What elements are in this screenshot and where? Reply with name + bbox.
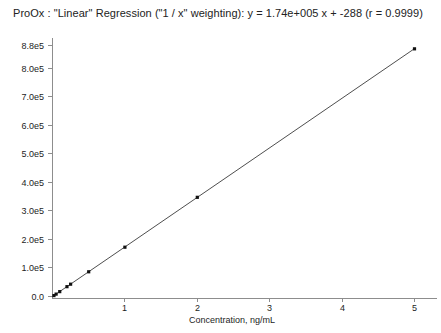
x-tick-label: 3 (267, 303, 272, 313)
data-point (65, 285, 68, 288)
y-tick-label: 8.8e5 (21, 41, 44, 51)
data-point (69, 283, 72, 286)
y-tick-label: 7.0e5 (21, 92, 44, 102)
data-point (123, 246, 126, 249)
chart-container: ProOx : "Linear" Regression ("1 / x" wei… (0, 0, 441, 333)
data-point (196, 196, 199, 199)
y-tick-label: 8.0e5 (21, 64, 44, 74)
y-tick-label: 0.0 (31, 292, 44, 302)
y-axis-tickmarks (48, 46, 53, 297)
x-axis-tick-labels: 1 2 3 4 5 (122, 303, 417, 313)
x-axis-tickmarks (125, 299, 415, 303)
x-tick-label: 4 (340, 303, 345, 313)
y-tick-label: 3.0e5 (21, 206, 44, 216)
x-tick-label: 2 (195, 303, 200, 313)
y-tick-label: 5.0e5 (21, 149, 44, 159)
x-tick-label: 5 (412, 303, 417, 313)
y-axis-tick-labels: 0.0 1.0e5 2.0e5 3.0e5 4.0e5 5.0e5 6.0e5 … (21, 41, 44, 302)
regression-fit-line (53, 49, 415, 297)
data-point (55, 293, 58, 296)
data-point (87, 270, 90, 273)
x-tick-label: 1 (122, 303, 127, 313)
x-axis-title: Concentration, ng/mL (189, 315, 275, 325)
y-tick-label: 2.0e5 (21, 235, 44, 245)
y-tick-label: 6.0e5 (21, 121, 44, 131)
data-point (413, 47, 416, 50)
y-tick-label: 4.0e5 (21, 178, 44, 188)
y-tick-label: 1.0e5 (21, 263, 44, 273)
regression-plot: 0.0 1.0e5 2.0e5 3.0e5 4.0e5 5.0e5 6.0e5 … (0, 0, 441, 333)
data-point (58, 290, 61, 293)
